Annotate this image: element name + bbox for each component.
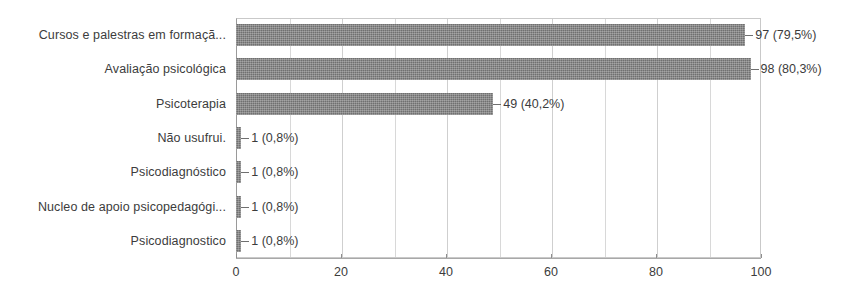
x-tick-label: 80: [649, 265, 663, 279]
category-label: Não usufrui.: [0, 131, 226, 145]
leader-line: [493, 104, 501, 105]
bar-value-label: 1 (0,8%): [251, 131, 298, 145]
bar-row: 1 (0,8%): [236, 196, 761, 218]
x-tick-label: 100: [751, 265, 772, 279]
bar[interactable]: [236, 93, 493, 115]
x-tick-mark: [551, 254, 552, 258]
bar-value-label: 49 (40,2%): [503, 97, 564, 111]
category-label: Avaliação psicológica: [0, 62, 226, 76]
x-tick-label: 60: [544, 265, 558, 279]
bar-row: 97 (79,5%): [236, 24, 761, 46]
bar-row: 98 (80,3%): [236, 58, 761, 80]
bar-row: 1 (0,8%): [236, 230, 761, 252]
bar-value-label: 1 (0,8%): [251, 234, 298, 248]
category-axis-labels: Cursos e palestras em formaçã...Avaliaçã…: [0, 18, 232, 258]
x-tick-mark: [236, 254, 237, 258]
leader-line: [241, 172, 249, 173]
x-axis: 020406080100: [236, 258, 761, 298]
leader-line: [241, 138, 249, 139]
bar-value-label: 1 (0,8%): [251, 200, 298, 214]
x-tick-mark: [446, 254, 447, 258]
category-label: Psicodiagnóstico: [0, 165, 226, 179]
bar-row: 1 (0,8%): [236, 161, 761, 183]
x-tick-mark: [656, 254, 657, 258]
bar[interactable]: [236, 24, 745, 46]
bar-row: 1 (0,8%): [236, 127, 761, 149]
leader-line: [751, 69, 759, 70]
x-tick-label: 40: [439, 265, 453, 279]
horizontal-bar-chart: Cursos e palestras em formaçã...Avaliaçã…: [0, 0, 851, 298]
x-tick-label: 20: [334, 265, 348, 279]
leader-line: [745, 35, 753, 36]
leader-line: [241, 241, 249, 242]
bar[interactable]: [236, 58, 751, 80]
x-tick-label: 0: [233, 265, 240, 279]
bar-value-label: 1 (0,8%): [251, 165, 298, 179]
bar-row: 49 (40,2%): [236, 93, 761, 115]
category-label: Nucleo de apoio psicopedagógi...: [0, 200, 226, 214]
x-tick-mark: [341, 254, 342, 258]
bar-value-label: 97 (79,5%): [755, 28, 816, 42]
x-tick-mark: [761, 254, 762, 258]
bar-value-label: 98 (80,3%): [761, 62, 822, 76]
category-label: Psicoterapia: [0, 97, 226, 111]
bars-layer: 97 (79,5%)98 (80,3%)49 (40,2%)1 (0,8%)1 …: [236, 18, 761, 258]
category-label: Cursos e palestras em formaçã...: [0, 28, 226, 42]
leader-line: [241, 207, 249, 208]
category-label: Psicodiagnostico: [0, 234, 226, 248]
x-axis-baseline: [236, 258, 761, 259]
